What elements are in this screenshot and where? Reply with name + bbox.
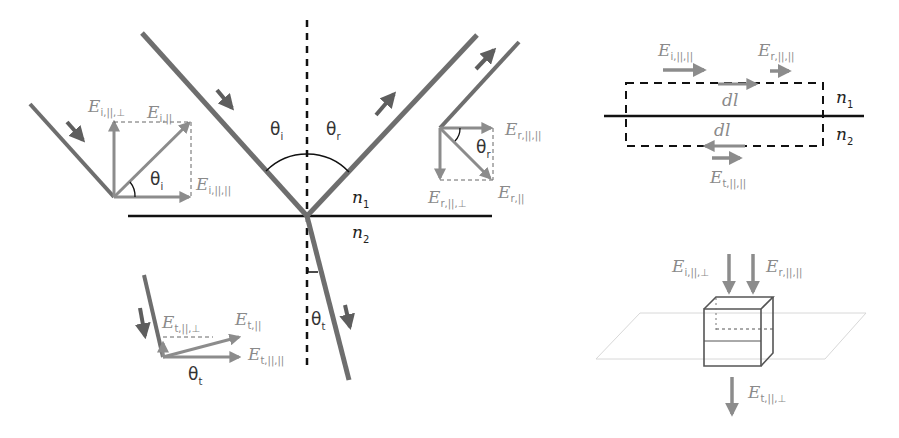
theta-t-inset-label: θt	[188, 364, 202, 387]
reflected-direction-arrow	[376, 94, 394, 115]
theta-t-label: θt	[311, 309, 325, 332]
fresnel-boundary-diagram: θi θr θt n1 n2 Ei,||,⊥ Ei,|| Ei,||,|| θi…	[0, 0, 899, 438]
e-r-total-label: Er,||	[497, 182, 524, 205]
loop-e-t-label: Et,||,||	[709, 167, 746, 190]
e-t-total-label: Et,||	[234, 309, 261, 332]
e-t-total-vector	[163, 337, 239, 357]
gaussian-pillbox-diagram: Ei,||,⊥ Er,||,|| Et,||,⊥	[596, 254, 866, 414]
loop-n1-label: n1	[836, 87, 853, 110]
dl-bottom-label: dl	[714, 120, 730, 140]
n1-label: n1	[352, 187, 369, 210]
pillbox-e-r-label: Er,||,||	[765, 256, 802, 279]
reflected-inset-direction-arrow	[476, 50, 494, 69]
transmitted-inset-direction-arrow	[140, 308, 145, 336]
theta-i-inset-label: θi	[150, 169, 163, 192]
transmitted-field-inset: Et,||,⊥ Et,|| Et,||,|| θt	[140, 275, 284, 387]
e-i-total-label: Ei,||	[146, 102, 172, 125]
loop-e-i-label: Ei,||,||	[657, 40, 693, 63]
pillbox-e-i-label: Ei,||,⊥	[671, 256, 709, 279]
loop-e-r-label: Er,||,||	[757, 40, 794, 63]
n2-label: n2	[352, 222, 369, 245]
amperian-loop-diagram: Ei,||,|| Er,||,|| Et,||,|| dl dl n1 n2	[604, 40, 864, 190]
e-i-par-label: Ei,||,||	[195, 174, 231, 197]
transmitted-angle-mark	[308, 268, 318, 272]
transmitted-ray	[307, 216, 349, 380]
e-i-perp-label: Ei,||,⊥	[87, 96, 125, 119]
loop-n2-label: n2	[836, 124, 853, 147]
e-r-perp-label: Er,||,⊥	[427, 187, 466, 210]
theta-r-label: θr	[326, 119, 341, 142]
incident-field-inset: Ei,||,⊥ Ei,|| Ei,||,|| θi	[30, 96, 231, 197]
pillbox-front	[704, 309, 761, 366]
theta-r-inset-label: θr	[476, 137, 491, 160]
e-t-par-label: Et,||,||	[247, 344, 284, 367]
theta-i-label: θi	[270, 119, 283, 142]
interface-plane	[596, 313, 866, 359]
transmitted-direction-arrow	[345, 305, 350, 327]
incident-direction-arrow	[217, 90, 232, 108]
e-r-par-label: Er,||,||	[504, 119, 541, 142]
dl-top-label: dl	[722, 90, 738, 110]
e-t-perp-label: Et,||,⊥	[161, 312, 200, 335]
incident-inset-direction-arrow	[67, 122, 83, 140]
pillbox-e-t-label: Et,||,⊥	[747, 382, 786, 405]
